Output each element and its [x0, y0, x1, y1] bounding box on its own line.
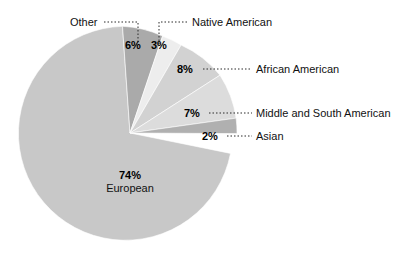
slice-label-european: 74% European [70, 169, 190, 195]
slice-percent-african-american: 8% [177, 63, 193, 75]
slice-label-other: Other [70, 16, 98, 28]
slice-percent-asian: 2% [202, 130, 218, 142]
pie-chart: 6% 3% 8% 7% 2% Other Native American Afr… [0, 0, 419, 267]
slice-percent-other: 6% [125, 39, 141, 51]
slice-percent-middle-and-south-american: 7% [184, 107, 200, 119]
slice-percent-native-american: 3% [151, 39, 167, 51]
slice-name-european: European [70, 182, 190, 195]
slice-percent-european: 74% [70, 169, 190, 182]
slice-label-middle-and-south-american: Middle and South American [256, 107, 391, 119]
slice-label-asian: Asian [256, 130, 284, 142]
slice-label-native-american: Native American [192, 16, 272, 28]
slice-label-african-american: African American [256, 63, 339, 75]
